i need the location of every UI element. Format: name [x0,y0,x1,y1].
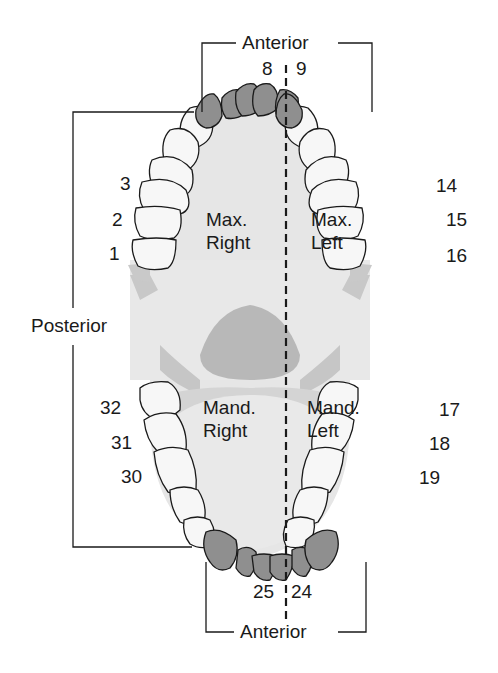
quadrant-mand-left-line2: Left [307,419,360,442]
tooth-number-9: 9 [296,59,307,79]
tooth-number-24: 24 [291,582,312,602]
tooth-number-25: 25 [253,582,274,602]
quadrant-max-right-line1: Max. [206,208,250,231]
anterior-bottom-label: Anterior [236,622,311,642]
quadrant-mand-right-line2: Right [203,419,256,442]
tooth-number-32: 32 [100,398,121,418]
tooth-number-30: 30 [121,467,142,487]
tooth-number-18: 18 [429,434,450,454]
tooth-number-15: 15 [446,210,467,230]
anterior-top-label: Anterior [238,33,313,53]
quadrant-mand-right-line1: Mand. [203,396,256,419]
quadrant-max-right-line2: Right [206,231,250,254]
tooth-number-17: 17 [439,400,460,420]
tooth-number-8: 8 [262,59,273,79]
tooth-number-3: 3 [120,174,131,194]
quadrant-mand-left-line1: Mand. [307,396,360,419]
tooth-number-14: 14 [436,176,457,196]
posterior-label: Posterior [27,316,111,336]
tooth-number-19: 19 [419,468,440,488]
tooth-number-16: 16 [446,246,467,266]
quadrant-max-left-line2: Left [311,231,352,254]
tooth-number-2: 2 [112,210,123,230]
tooth-number-1: 1 [109,244,120,264]
quadrant-max-left-line1: Max. [311,208,352,231]
quadrant-max-left: Max. Left [311,208,352,254]
tooth-number-31: 31 [111,433,132,453]
quadrant-mand-right: Mand. Right [203,396,256,442]
dental-arch-diagram [0,0,498,673]
quadrant-max-right: Max. Right [206,208,250,254]
quadrant-mand-left: Mand. Left [307,396,360,442]
